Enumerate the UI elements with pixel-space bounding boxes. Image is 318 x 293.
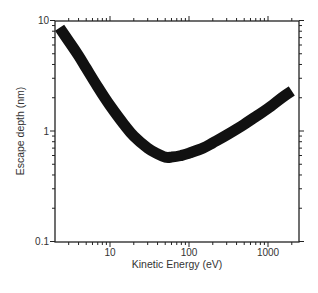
data-curve xyxy=(60,28,292,158)
x-tick-label: 10 xyxy=(104,247,116,258)
y-tick-label: 1 xyxy=(43,126,49,137)
y-tick-label: 10 xyxy=(38,15,50,26)
axis-ticks xyxy=(50,16,304,247)
y-tick-label: 0.1 xyxy=(35,236,49,247)
x-axis-label: Kinetic Energy (eV) xyxy=(132,258,222,270)
y-axis-label: Escape depth (nm) xyxy=(14,87,26,176)
x-tick-label: 1000 xyxy=(257,247,280,258)
plot-frame xyxy=(55,21,299,242)
x-tick-label: 100 xyxy=(181,247,198,258)
escape-depth-chart: 1010010000.1110 Kinetic Energy (eV) Esca… xyxy=(0,0,318,293)
